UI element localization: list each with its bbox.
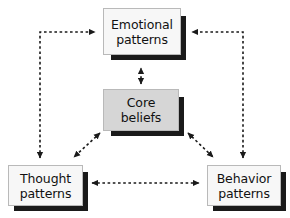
connector-core-thought [74, 133, 100, 157]
connector-behavior-emotional [192, 32, 243, 158]
node-emotional-patterns[interactable]: Emotional patterns [103, 8, 181, 55]
node-core-line1: Core [127, 95, 156, 110]
node-thought-line1: Thought [20, 171, 71, 186]
node-emotional-line1: Emotional [111, 17, 173, 32]
emotional-box-shadow-bottom [111, 55, 186, 60]
thought-box-shadow-bottom [14, 206, 88, 211]
connector-thought-emotional [40, 32, 95, 158]
node-behavior-patterns[interactable]: Behavior patterns [207, 165, 281, 206]
emotional-box-shadow-right [181, 16, 186, 60]
behavior-box-shadow-bottom [213, 206, 286, 211]
node-core-beliefs[interactable]: Core beliefs [103, 89, 179, 131]
node-thought-line2: patterns [20, 186, 72, 201]
cbt-triangle-diagram: Emotional patterns Core beliefs Thought … [0, 0, 290, 218]
node-thought-patterns[interactable]: Thought patterns [8, 165, 83, 206]
connector-core-behavior [188, 133, 213, 157]
node-emotional-line2: patterns [116, 32, 168, 47]
node-behavior-line1: Behavior [217, 171, 272, 186]
node-behavior-line2: patterns [218, 186, 270, 201]
core-box-shadow-bottom [111, 131, 184, 136]
node-core-line2: beliefs [121, 110, 161, 125]
